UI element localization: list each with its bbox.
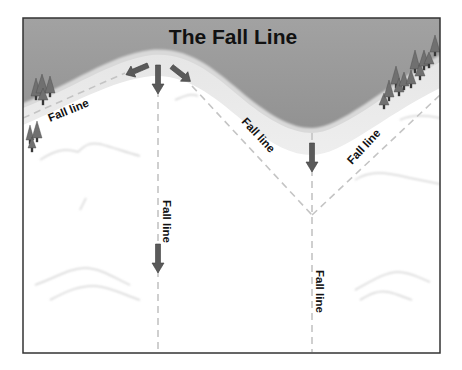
label-right-vertical: Fall line <box>314 270 326 313</box>
diagram-title: The Fall Line <box>169 25 297 48</box>
label-left-vertical: Fall line <box>161 200 173 243</box>
fall-line-diagram: The Fall Line Fall line Fall line Fall l… <box>0 0 462 370</box>
